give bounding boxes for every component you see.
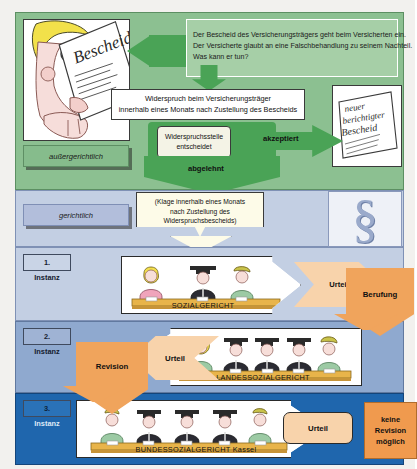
decision-text: Widerspruchsstelle entscheidet	[165, 132, 223, 152]
appeal-label-3: keine Revision möglich	[365, 414, 416, 448]
intro-line-3: Was kann er tun?	[193, 52, 393, 63]
bescheid-cartoon-svg: Bescheid	[24, 20, 130, 141]
instance-row-3: 3. Instanz	[15, 393, 404, 465]
claim-line-3: Widerspruchsbescheids)	[155, 216, 245, 226]
instance-row-1: 1. Instanz	[15, 247, 404, 321]
intro-line-1: Der Bescheid des Versicherungsträgers ge…	[193, 30, 393, 41]
claim-text: (Klage innerhalb eines Monats nach Zuste…	[155, 197, 245, 226]
paragraph-symbol-box: §	[328, 191, 402, 247]
label-judicial: gerichtlich	[23, 204, 129, 226]
arrow-to-intro-icon	[127, 35, 151, 67]
appeal-label-2: Revision	[96, 362, 129, 371]
instance-1-word: Instanz	[23, 273, 71, 282]
rejected-label: abgelehnt	[188, 164, 224, 173]
instance-2-word: Instanz	[23, 347, 71, 356]
paragraph-symbol-icon: §	[352, 199, 378, 240]
objection-text: Widerspruch beim Versicherungsträger inn…	[119, 94, 297, 116]
intro-text-box: Der Bescheid des Versicherungsträgers ge…	[186, 19, 398, 77]
instance-2-number: 2.	[23, 328, 71, 345]
instance-1-number: 1.	[23, 254, 71, 271]
intro-line-2: Der Versicherte glaubt an eine Falschbeh…	[193, 41, 393, 52]
court-name-3: BUNDESSOZIALGERICHT Kassel	[76, 445, 325, 454]
judgment-box-3: Urteil	[283, 412, 353, 444]
instance-3-word: Instanz	[23, 419, 71, 428]
decision-line-2: entscheidet	[165, 142, 223, 152]
judgment-label-2: Urteil	[165, 354, 185, 363]
instance-3-number: 3.	[23, 400, 71, 417]
label-extrajudicial-text: außergerichtlich	[49, 152, 103, 161]
objection-box: Widerspruch beim Versicherungsträger inn…	[111, 89, 305, 120]
illustration-insured-reading-notice: Bescheid	[23, 19, 130, 141]
objection-office-decision-box: Widerspruchsstelle entscheidet	[157, 126, 231, 158]
decision-line-1: Widerspruchsstelle	[165, 132, 223, 142]
corrected-notice-document: neuer berichtigter Bescheid	[332, 85, 402, 167]
judgment-label-1: Urteil	[329, 280, 348, 289]
arrow-to-intro-tail	[149, 35, 189, 67]
label-judicial-text: gerichtlich	[59, 211, 93, 220]
intro-text: Der Bescheid des Versicherungsträgers ge…	[193, 30, 393, 63]
court-name-1: SOZIALGERICHT	[121, 301, 300, 310]
arrow-rejected: abgelehnt	[144, 156, 280, 194]
objection-line-1: Widerspruch beim Versicherungsträger	[119, 94, 297, 105]
claim-line-1: (Klage innerhalb eines Monats	[155, 197, 245, 207]
section-extrajudicial: Bescheid Der Bescheid des Versicherungst…	[15, 12, 404, 190]
claim-line-2: nach Zustellung des	[155, 207, 245, 217]
label-extrajudicial: außergerichtlich	[23, 145, 129, 167]
judgment-label-3: Urteil	[308, 424, 328, 433]
court-panel-sozialgericht: SOZIALGERICHT	[121, 256, 301, 314]
instance-row-2: 2. Instanz	[15, 321, 404, 393]
objection-line-2: innerhalb eines Monats nach Zustellung d…	[119, 105, 297, 116]
accepted-label: akzeptiert	[263, 134, 298, 143]
appeal-label-1: Berufung	[363, 290, 398, 299]
no-appeal-box: keine Revision möglich	[364, 402, 417, 459]
corrected-notice-svg: neuer berichtigter Bescheid	[333, 86, 401, 166]
